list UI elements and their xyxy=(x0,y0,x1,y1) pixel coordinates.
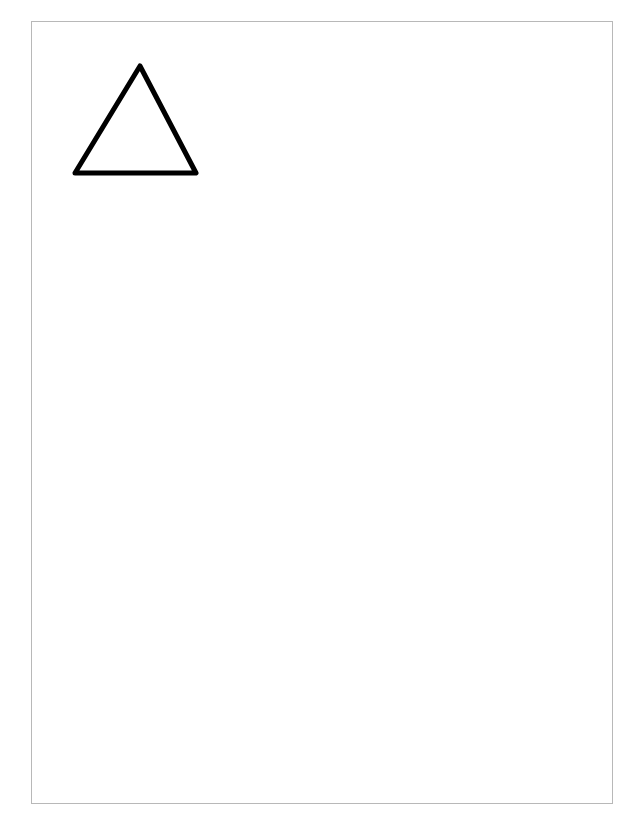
drawing-page xyxy=(31,21,613,804)
